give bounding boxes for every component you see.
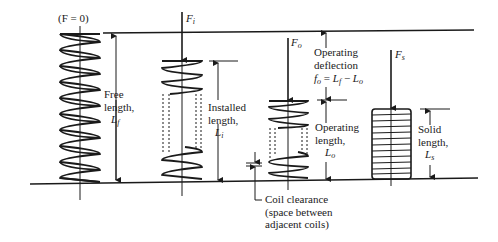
installed-length-label: Installedlength,Li (208, 101, 246, 140)
free-force-label: (F = 0) (58, 12, 89, 25)
solid-spring: Fs Solidlength,Ls (372, 48, 450, 186)
deflection-formula: fo = Lf − Lo (314, 72, 363, 86)
operating-force-label: Fo (290, 36, 302, 50)
free-length-label: Freelength,Lf (104, 88, 134, 127)
solid-length-label: Solidlength,Ls (418, 123, 448, 162)
operating-deflection-label: Operatingdeflection fo = Lf − Lo (314, 46, 363, 86)
operating-length-label: Operatinglength,Lo (315, 121, 359, 160)
free-length-top-line (103, 30, 474, 33)
installed-spring: Fi Installedlength,Li (162, 12, 246, 196)
free-spring: (F = 0) Freelength,Lf (58, 12, 134, 200)
spring-diagram: (F = 0) Freelength,Lf Fi Installedlength… (0, 0, 498, 242)
coil-clearance-label: Coil clearance(space betweenadjacent coi… (255, 176, 333, 231)
solid-force-label: Fs (394, 48, 405, 62)
svg-text:Coil clearance(space betweenad: Coil clearance(space betweenadjacent coi… (265, 193, 333, 231)
svg-text:Operatingdeflection: Operatingdeflection (314, 46, 358, 71)
installed-force-label: Fi (185, 12, 195, 26)
